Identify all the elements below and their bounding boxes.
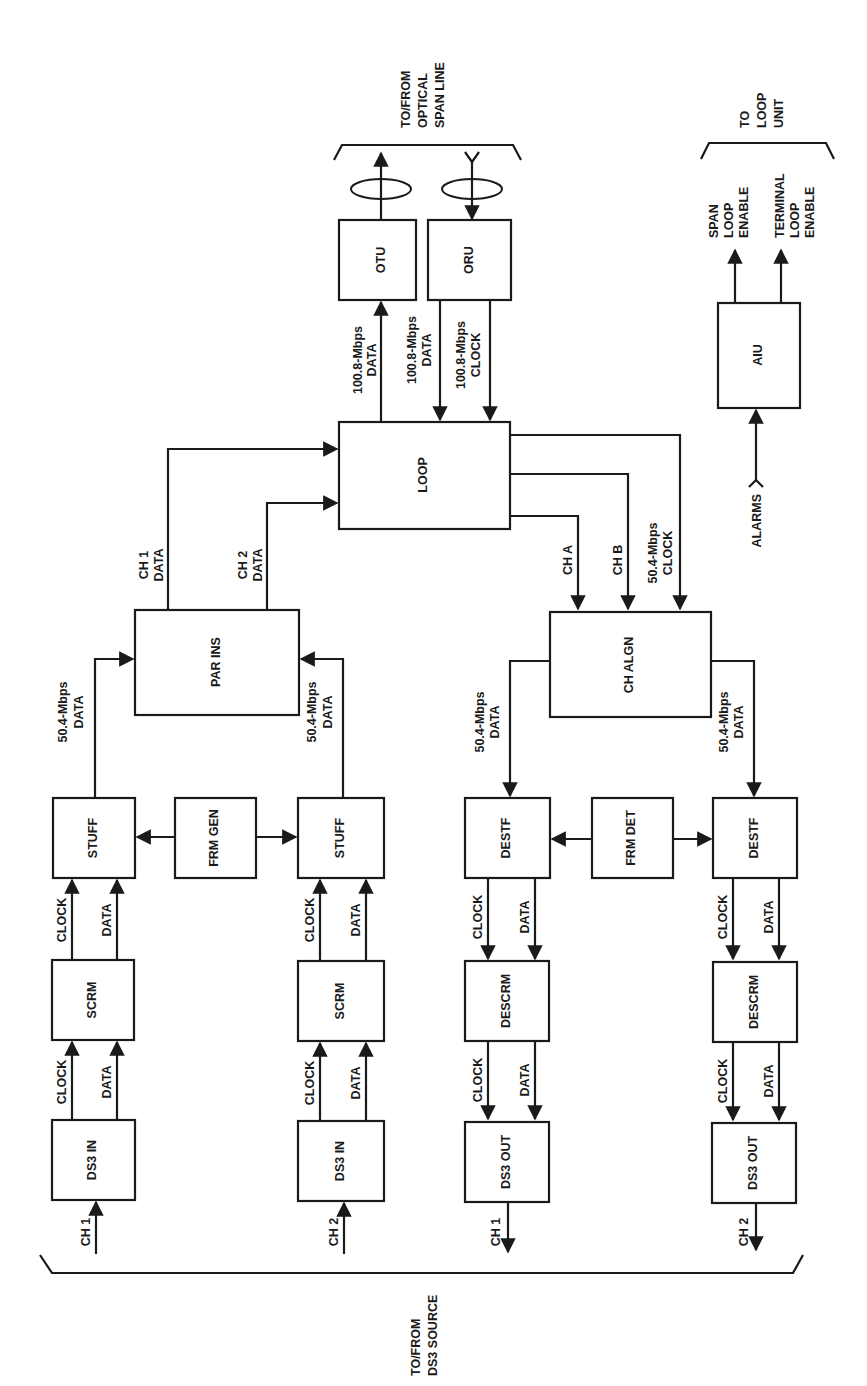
stuff1-out-label: 50.4-Mbps DATA — [56, 681, 86, 742]
svg-text:50.4-Mbps: 50.4-Mbps — [56, 681, 70, 742]
ch1-data-label: CH 1 DATA — [137, 549, 166, 582]
ds3in2-data-label: DATA — [349, 1067, 363, 1100]
ds3in1-clock-label: CLOCK — [55, 1060, 69, 1104]
algn-out1-line — [510, 661, 550, 796]
svg-text:OPTICAL: OPTICAL — [416, 73, 430, 128]
svg-text:ENABLE: ENABLE — [803, 187, 817, 238]
loop-unit-group-label: TO LOOP UNIT — [738, 93, 786, 128]
svg-text:DATA: DATA — [72, 696, 86, 729]
ch2-output-label: CH 2 — [737, 1218, 751, 1247]
svg-text:100.8-Mbps: 100.8-Mbps — [405, 316, 419, 384]
ch-b-line — [510, 474, 628, 609]
ch-b-label: CH B — [611, 545, 625, 576]
stuff-block-ch1: STUFF — [53, 798, 135, 878]
svg-text:PAR INS: PAR INS — [209, 637, 223, 687]
loop-block: LOOP — [339, 422, 510, 529]
scrm2-data-label: DATA — [349, 904, 363, 937]
svg-text:TO/FROM: TO/FROM — [409, 1319, 423, 1376]
svg-text:CLOCK: CLOCK — [469, 333, 483, 377]
destf1-data-label: DATA — [518, 901, 532, 934]
svg-text:DATA: DATA — [420, 334, 434, 367]
svg-text:ENABLE: ENABLE — [737, 187, 751, 238]
scrm1-data-label: DATA — [100, 904, 114, 937]
frm-det-block: FRM DET — [592, 798, 673, 878]
svg-text:SCRM: SCRM — [85, 982, 99, 1019]
svg-text:LOOP: LOOP — [416, 457, 430, 492]
descrm-block-ch2: DESCRM — [713, 962, 797, 1042]
optical-bracket — [334, 145, 521, 160]
ch2-data-line — [267, 503, 337, 610]
optical-group-label: TO/FROM OPTICAL SPAN LINE — [399, 62, 447, 128]
ds3in2-clock-label: CLOCK — [303, 1061, 317, 1105]
algn-out2-label: 50.4-Mbps DATA — [717, 691, 746, 752]
destf-block-ch1: DESTF — [465, 798, 550, 878]
svg-text:CLOCK: CLOCK — [661, 531, 675, 575]
terminal-loop-enable-label: TERMINAL LOOP ENABLE — [773, 173, 817, 238]
descrm2-clock-label: CLOCK — [716, 1059, 730, 1103]
svg-text:SPAN LINE: SPAN LINE — [433, 62, 447, 128]
svg-text:TERMINAL: TERMINAL — [773, 173, 787, 238]
svg-text:DATA: DATA — [321, 696, 335, 729]
svg-text:CH 1: CH 1 — [137, 551, 151, 580]
block-diagram: TO/FROM OPTICAL SPAN LINE TO LOOP UNIT T… — [0, 0, 867, 1386]
alarms-tail-icon — [749, 480, 763, 487]
svg-text:SPAN: SPAN — [707, 204, 721, 238]
loop-unit-bracket — [701, 143, 834, 159]
ds3-source-group-label: TO/FROM DS3 SOURCE — [409, 1295, 440, 1376]
svg-text:100.8-Mbps: 100.8-Mbps — [351, 326, 365, 394]
destf2-clock-label: CLOCK — [716, 895, 730, 939]
svg-text:DESCRM: DESCRM — [499, 974, 513, 1028]
ch2-data-label: CH 2 DATA — [236, 549, 265, 582]
svg-text:LOOP: LOOP — [722, 203, 736, 238]
svg-text:100.8-Mbps: 100.8-Mbps — [454, 321, 468, 389]
algn-out1-label: 50.4-Mbps DATA — [473, 691, 502, 752]
ch1-data-line — [168, 449, 337, 610]
ds3in1-data-label: DATA — [100, 1066, 114, 1099]
loop-clock-label: 50.4-Mbps CLOCK — [646, 522, 675, 583]
svg-text:DATA: DATA — [251, 549, 265, 582]
otu-input-label: 100.8-Mbps DATA — [351, 326, 379, 394]
scrm-block-ch2: SCRM — [298, 961, 384, 1041]
span-loop-enable-label: SPAN LOOP ENABLE — [707, 187, 751, 238]
svg-text:UNIT: UNIT — [772, 98, 786, 128]
ds3-source-bracket — [40, 1255, 803, 1273]
svg-text:DATA: DATA — [488, 706, 502, 739]
scrm-block-ch1: SCRM — [52, 960, 134, 1040]
par-ins-block: PAR INS — [135, 610, 299, 715]
svg-text:50.4-Mbps: 50.4-Mbps — [473, 691, 487, 752]
ds3-in-block-ch2: DS3 IN — [298, 1121, 384, 1201]
svg-text:DS3 IN: DS3 IN — [333, 1141, 347, 1181]
descrm1-clock-label: CLOCK — [471, 1058, 485, 1102]
ds3-out-block-ch2: DS3 OUT — [712, 1123, 796, 1203]
svg-text:ORU: ORU — [462, 246, 476, 274]
oru-clock-label: 100.8-Mbps CLOCK — [454, 321, 483, 389]
oru-input-tail-icon — [465, 152, 479, 162]
svg-text:DESCRM: DESCRM — [747, 975, 761, 1029]
alarms-label: ALARMS — [750, 494, 764, 547]
svg-text:LOOP: LOOP — [788, 203, 802, 238]
svg-text:CH ALGN: CH ALGN — [622, 637, 636, 693]
scrm1-clock-label: CLOCK — [55, 898, 69, 942]
svg-text:STUFF: STUFF — [333, 818, 347, 859]
descrm1-data-label: DATA — [518, 1064, 532, 1097]
svg-text:DESTF: DESTF — [747, 817, 761, 858]
svg-text:FRM GEN: FRM GEN — [207, 809, 221, 867]
descrm2-data-label: DATA — [762, 1065, 776, 1098]
svg-text:TO/FROM: TO/FROM — [399, 71, 413, 128]
oru-block: ORU — [428, 220, 511, 300]
descrm-block-ch1: DESCRM — [465, 961, 549, 1041]
otu-block: OTU — [339, 220, 416, 300]
svg-text:50.4-Mbps: 50.4-Mbps — [646, 522, 660, 583]
svg-text:DATA: DATA — [365, 344, 379, 377]
aiu-block: AIU — [718, 303, 800, 408]
ch2-input-label: CH 2 — [327, 1218, 341, 1247]
svg-text:DS3 OUT: DS3 OUT — [746, 1136, 760, 1191]
svg-text:50.4-Mbps: 50.4-Mbps — [305, 681, 319, 742]
stuff-block-ch2: STUFF — [298, 798, 384, 878]
ds3-out-block-ch1: DS3 OUT — [465, 1122, 549, 1202]
svg-text:DS3 SOURCE: DS3 SOURCE — [426, 1295, 440, 1376]
svg-text:DS3 OUT: DS3 OUT — [499, 1135, 513, 1190]
ch-algn-block: CH ALGN — [550, 612, 711, 717]
svg-text:FRM DET: FRM DET — [624, 810, 638, 866]
oru-data-label: 100.8-Mbps DATA — [405, 316, 434, 384]
